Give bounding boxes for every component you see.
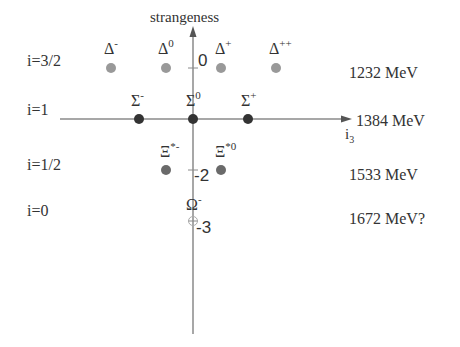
mass-label-xi: 1533 MeV	[349, 166, 418, 183]
tick-label-minus3: -3	[196, 218, 211, 237]
isospin-label-1-2: i=1/2	[27, 156, 61, 173]
particle-label-delta-0: Δ0	[158, 37, 174, 57]
isospin-label-0: i=0	[27, 202, 48, 219]
particle-dot-sigma-0	[188, 114, 198, 124]
particle-label-xi-minus: Ξ*-	[160, 140, 180, 160]
particle-dot-sigma-plus	[243, 114, 253, 124]
isospin-label-1: i=1	[27, 101, 48, 118]
particle-dot-delta-plusplus	[271, 63, 281, 73]
baryon-decuplet-diagram: strangeness i3 0 -2 -3 i=3/2 i=1 i=1/2 i…	[0, 0, 460, 347]
particle-label-sigma-0: Σ0	[186, 89, 201, 109]
isospin-label-3-2: i=3/2	[27, 52, 61, 69]
particle-dot-delta-plus	[216, 63, 226, 73]
particle-label-sigma-plus: Σ+	[241, 89, 257, 109]
mass-label-omega: 1672 MeV?	[349, 210, 425, 227]
i3-arrow-icon	[341, 116, 352, 123]
particle-label-delta-minus: Δ-	[104, 37, 118, 57]
particle-label-delta-plusplus: Δ++	[269, 37, 292, 57]
particle-label-delta-plus: Δ+	[215, 37, 232, 57]
diagram-canvas: strangeness i3 0 -2 -3 i=3/2 i=1 i=1/2 i…	[0, 0, 460, 347]
tick-label-0: 0	[198, 51, 207, 70]
i3-label: i3	[345, 126, 354, 145]
particle-label-sigma-minus: Σ-	[131, 89, 144, 109]
tick-label-minus2: -2	[194, 166, 209, 185]
particle-dot-sigma-minus	[134, 114, 144, 124]
strangeness-arrow-icon	[190, 26, 197, 37]
particle-dot-delta-0	[161, 63, 171, 73]
mass-label-sigma: 1384 MeV	[356, 112, 425, 129]
strangeness-label: strangeness	[150, 9, 219, 25]
particle-label-xi-0: Ξ*0	[215, 140, 237, 160]
particle-dot-xi-minus	[161, 165, 171, 175]
mass-label-delta: 1232 MeV	[349, 64, 418, 81]
particle-label-omega-minus: Ω-	[186, 193, 202, 213]
particle-dot-xi-0	[216, 165, 226, 175]
particle-dot-delta-minus	[106, 63, 116, 73]
